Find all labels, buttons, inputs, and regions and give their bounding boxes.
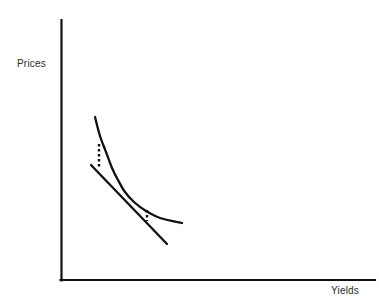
- y-axis-label-prices: Prices: [17, 58, 46, 70]
- price-yield-figure: Prices Yields: [0, 0, 379, 307]
- x-axis-label-yields: Yields: [331, 285, 359, 297]
- plot-canvas: [0, 0, 379, 307]
- figure-background: [0, 0, 379, 307]
